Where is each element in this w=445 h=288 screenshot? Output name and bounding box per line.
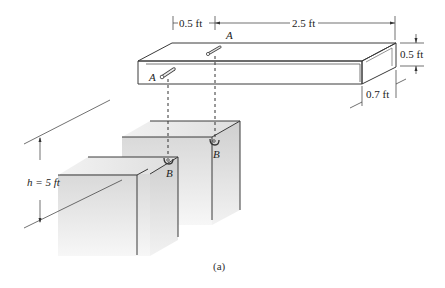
extension-line-top [24,100,110,144]
beam-end-inner-line [366,48,392,62]
pin-a-front [160,69,174,79]
pin-a-top-label: A [225,29,233,41]
wall-front [58,169,148,256]
wall-height-label: h = 5 ft [27,176,61,188]
pin-a-front-label: A [148,71,156,83]
beam [138,43,396,84]
wall-height-label-text: h = 5 ft [27,176,61,188]
figure-caption: (a) [213,260,226,273]
dimension-length: 2.5 ft [215,16,395,40]
dim-height-label: 0.5 ft [400,48,423,60]
beam-top-face [138,43,396,61]
engineering-diagram: A A 0.5 ft 2.5 ft 0.5 ft 0.7 ft [0,0,445,288]
dimension-height: 0.5 ft [400,34,424,74]
beam-end-face [362,43,396,84]
support-b-front-label: B [166,167,173,179]
dim-pin-offset-label: 0.5 ft [179,17,202,29]
dim-length-label: 2.5 ft [292,17,315,29]
dim-width-label: 0.7 ft [366,88,389,100]
pin-a-top [206,47,220,56]
dimension-pin-offset: 0.5 ft [173,16,215,30]
support-b-back-label: B [213,148,220,160]
